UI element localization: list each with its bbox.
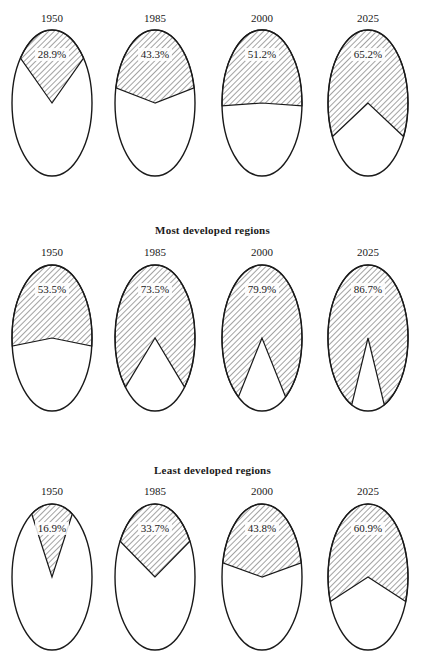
year-label: 2025 [357,246,380,258]
year-label: 1985 [144,12,167,24]
percent-label: 33.7% [141,522,169,534]
percent-label: 28.9% [38,48,66,60]
hatched-slice [222,30,302,106]
percent-label: 51.2% [248,48,276,60]
year-label: 1950 [41,12,64,24]
pie-2025-1: 202586.7% [328,246,408,411]
pie-1985-1: 198573.5% [115,246,195,411]
percent-label: 73.5% [141,283,169,295]
pie-1985-0: 198543.3% [115,12,195,176]
year-label: 2025 [357,12,380,24]
percent-label: 16.9% [38,522,66,534]
pie-2000-1: 200079.9% [222,246,302,411]
pie-1950-2: 195016.9% [12,485,92,650]
year-label: 2025 [357,485,380,497]
pie-1950-0: 195028.9% [12,12,92,176]
percent-label: 86.7% [354,283,382,295]
year-label: 1985 [144,246,167,258]
hatched-slice [116,30,194,103]
percent-label: 60.9% [354,522,382,534]
hatched-slice [223,504,301,577]
percent-label: 43.8% [248,522,276,534]
percent-label: 43.3% [141,48,169,60]
percent-label: 65.2% [354,48,382,60]
year-label: 2000 [251,246,274,258]
year-label: 2000 [251,485,274,497]
percent-label: 53.5% [38,283,66,295]
pie-2025-0: 202565.2% [328,12,408,176]
pie-1950-1: 195053.5% [12,246,92,411]
percent-label: 79.9% [248,283,276,295]
year-label: 1950 [41,485,64,497]
hatched-slice [12,265,92,346]
year-label: 1985 [144,485,167,497]
pie-chart-grid: 195028.9%198543.3%200051.2%202565.2%1950… [0,0,425,658]
year-label: 1950 [41,246,64,258]
pie-2025-2: 202560.9% [328,485,408,650]
year-label: 2000 [251,12,274,24]
pie-2000-0: 200051.2% [222,12,302,176]
pie-1985-2: 198533.7% [115,485,195,650]
pie-2000-2: 200043.8% [222,485,302,650]
